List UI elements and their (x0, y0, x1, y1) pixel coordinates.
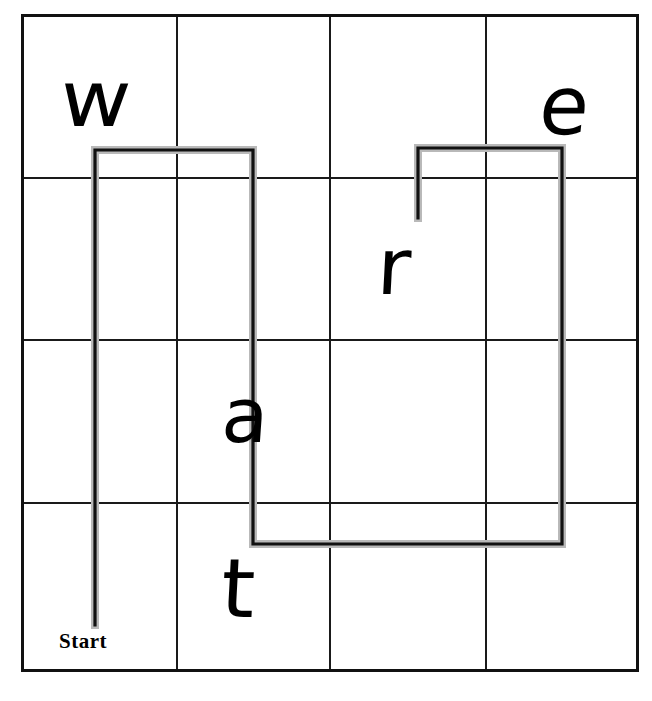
puzzle-canvas: Start w e r a t (0, 0, 652, 701)
letter-t: t (219, 548, 257, 630)
traced-path-line (95, 148, 562, 625)
start-label: Start (59, 629, 107, 654)
traced-path-halo (95, 148, 562, 625)
traced-path (95, 148, 562, 625)
letter-a: a (219, 378, 271, 454)
letter-e: e (536, 65, 594, 147)
letter-r: r (375, 228, 413, 306)
letter-w: w (58, 60, 134, 138)
